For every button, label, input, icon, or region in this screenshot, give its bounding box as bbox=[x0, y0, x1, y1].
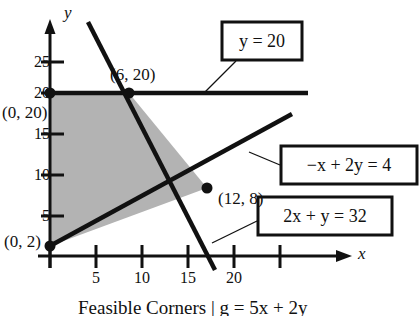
x-axis-tick-label-15: 15 bbox=[174, 270, 202, 286]
feasible-region-shading bbox=[50, 93, 207, 246]
corner-annotation-12-8: (12, 8) bbox=[218, 190, 263, 207]
equation-label-neg-x-plus-2y-equals-4: −x + 2y = 4 bbox=[281, 146, 417, 184]
leader-line-2x-plus-y-equals-32 bbox=[212, 221, 257, 243]
figure-caption: Feasible Corners | g = 5x + 2y bbox=[78, 298, 307, 316]
x-axis-tick-label-5: 5 bbox=[82, 270, 110, 286]
corner-annotation-0-2: (0, 2) bbox=[4, 233, 41, 250]
x-axis-arrowhead bbox=[336, 250, 352, 262]
equation-label-y-equals-20: y = 20 bbox=[222, 22, 302, 60]
leader-line-neg-x-plus-2y-equals-4 bbox=[249, 152, 280, 165]
y-axis-tick-label-5: 5 bbox=[22, 208, 50, 224]
y-axis-tick-label-15: 15 bbox=[22, 126, 50, 142]
y-axis-tick-label-25: 25 bbox=[22, 54, 50, 70]
y-axis-tick-label-20: 20 bbox=[22, 85, 50, 101]
y-axis-arrowhead bbox=[45, 19, 56, 34]
equation-label-2x-plus-y-equals-32: 2x + y = 32 bbox=[258, 197, 392, 235]
corner-point-0-2 bbox=[45, 241, 56, 252]
corner-point-6-20 bbox=[124, 88, 135, 99]
x-axis-label: x bbox=[358, 245, 366, 262]
x-axis-tick-label-20: 20 bbox=[220, 270, 248, 286]
y-axis-tick-label-10: 10 bbox=[22, 167, 50, 183]
corner-annotation-0-20: (0, 20) bbox=[2, 104, 47, 121]
y-axis-label: y bbox=[64, 4, 72, 21]
corner-annotation-6-20: (6, 20) bbox=[110, 66, 155, 83]
figure-canvas: 25 20 15 10 5 5 10 15 20 y x (6, 20) (0,… bbox=[0, 0, 419, 316]
leader-line-y-equals-20 bbox=[205, 61, 236, 92]
x-axis-tick-label-10: 10 bbox=[128, 270, 156, 286]
corner-point-12-8 bbox=[202, 183, 213, 194]
